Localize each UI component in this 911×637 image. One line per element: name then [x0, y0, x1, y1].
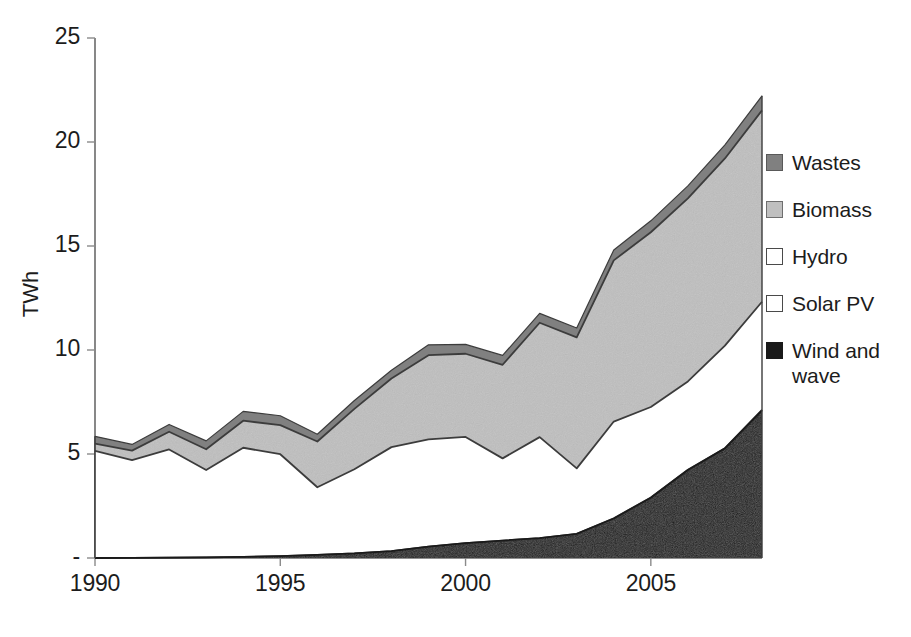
legend-item-wastes[interactable]: Wastes — [766, 150, 911, 175]
y-axis-tick-label: 15 — [38, 233, 80, 256]
legend-item-hydro[interactable]: Hydro — [766, 244, 911, 269]
y-axis-tick-label: 5 — [38, 441, 80, 464]
x-axis-tick-label: 1990 — [50, 570, 140, 596]
y-axis-tick-label: 20 — [38, 129, 80, 152]
legend-item-label: Wastes — [792, 150, 861, 175]
legend-item-label: Solar PV — [792, 291, 874, 316]
stacked-area-chart: -510152025 TWh 1990199520002005 WastesBi… — [0, 0, 911, 637]
x-axis-ticks — [95, 558, 651, 566]
legend-swatch-icon — [766, 248, 783, 265]
legend-item-label: Biomass — [792, 197, 872, 222]
legend-item-solar-pv[interactable]: Solar PV — [766, 291, 911, 316]
y-axis-tick-label: 25 — [38, 25, 80, 48]
chart-legend: WastesBiomassHydroSolar PVWind and wave — [766, 150, 911, 410]
legend-swatch-icon — [766, 154, 783, 171]
legend-item-label: Wind and wave — [792, 338, 911, 388]
x-axis-tick-label: 2005 — [606, 570, 696, 596]
y-axis-tick-label: 10 — [38, 337, 80, 360]
legend-swatch-icon — [766, 295, 783, 312]
x-axis-tick-label: 2000 — [421, 570, 511, 596]
legend-swatch-icon — [766, 201, 783, 218]
series-areas — [95, 96, 762, 558]
legend-item-biomass[interactable]: Biomass — [766, 197, 911, 222]
y-axis-title: TWh — [20, 249, 42, 339]
y-axis-ticks — [87, 38, 95, 558]
legend-item-label: Hydro — [792, 244, 848, 269]
x-axis-tick-label: 1995 — [235, 570, 325, 596]
legend-swatch-icon — [766, 342, 783, 359]
x-axis-label-group: 1990199520002005 — [0, 570, 790, 610]
legend-item-wind-and-wave[interactable]: Wind and wave — [766, 338, 911, 388]
y-axis-tick-label: - — [38, 545, 80, 568]
